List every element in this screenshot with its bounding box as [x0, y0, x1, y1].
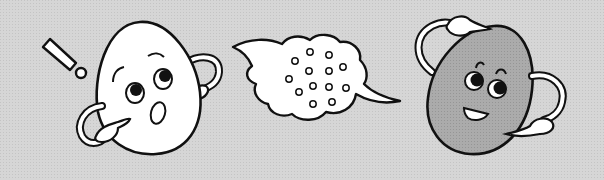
- left-character-eye-right: [154, 69, 172, 89]
- right-character-eye-right: [488, 80, 507, 98]
- left-character-eye-left: [126, 83, 144, 103]
- illustration-scene: [0, 0, 604, 180]
- right-character-eye-left: [465, 72, 484, 90]
- illustration-canvas: [0, 0, 604, 180]
